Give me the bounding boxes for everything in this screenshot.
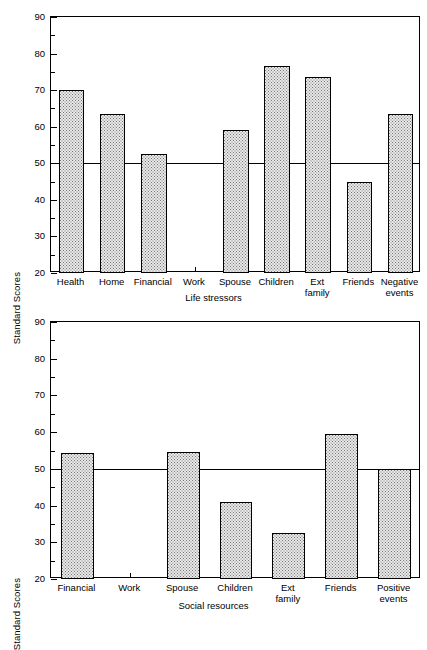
y-tick-minor — [51, 524, 55, 525]
reference-line-50-bottom — [51, 469, 419, 470]
y-tick-major — [51, 542, 57, 543]
y-tick-minor — [51, 451, 55, 452]
y-tick-minor — [51, 182, 55, 183]
x-category-label: Children — [205, 582, 266, 593]
bar — [220, 502, 253, 579]
bar — [100, 114, 125, 273]
y-tick-label: 30 — [34, 230, 45, 241]
y-tick-label: 60 — [34, 426, 45, 437]
bar — [61, 453, 94, 579]
plot-area-top — [50, 16, 420, 272]
x-tick — [130, 573, 131, 577]
x-tick — [195, 267, 196, 271]
chart-life-stressors: Standard Scores 2030405060708090 HealthH… — [0, 0, 427, 312]
y-tick-label: 60 — [34, 120, 45, 131]
y-tick-minor — [51, 35, 55, 36]
y-tick-minor — [51, 108, 55, 109]
y-tick-label: 50 — [34, 462, 45, 473]
x-category-label: Spouse — [152, 582, 213, 593]
y-tick-major — [51, 469, 57, 470]
y-tick-label: 80 — [34, 352, 45, 363]
y-tick-minor — [51, 377, 55, 378]
bar — [325, 434, 358, 579]
y-tick-major — [51, 506, 57, 507]
y-tick-label: 20 — [34, 267, 45, 278]
y-tick-major — [51, 54, 57, 55]
y-tick-minor — [51, 72, 55, 73]
y-tick-minor — [51, 340, 55, 341]
y-tick-minor — [51, 218, 55, 219]
y-tick-major — [51, 90, 57, 91]
y-tick-label: 70 — [34, 389, 45, 400]
y-tick-minor — [51, 145, 55, 146]
y-tick-major — [51, 236, 57, 237]
y-axis-title: Standard Scores — [0, 16, 14, 272]
y-tick-major — [51, 127, 57, 128]
y-tick-label: 40 — [34, 193, 45, 204]
y-tick-minor — [51, 255, 55, 256]
y-tick-label: 20 — [34, 573, 45, 584]
y-tick-major — [51, 200, 57, 201]
bar — [141, 154, 166, 273]
bar — [347, 182, 372, 273]
chart-social-resources: Standard Scores 2030405060708090 Financi… — [0, 312, 427, 625]
y-tick-label: 30 — [34, 536, 45, 547]
y-tick-major — [51, 395, 57, 396]
y-tick-major — [51, 273, 57, 274]
y-tick-label: 70 — [34, 84, 45, 95]
y-axis-title-bottom: Standard Scores — [0, 321, 14, 578]
y-tick-major — [51, 322, 57, 323]
y-tick-label: 90 — [34, 316, 45, 327]
y-tick-minor — [51, 414, 55, 415]
y-tick-major — [51, 579, 57, 580]
y-tick-major — [51, 432, 57, 433]
bar — [59, 90, 84, 273]
x-axis-title-bottom: Social resources — [0, 600, 427, 611]
y-tick-major — [51, 17, 57, 18]
bar — [305, 77, 330, 273]
x-axis-title-top: Life stressors — [0, 292, 427, 303]
bar — [167, 452, 200, 579]
plot-area-bottom — [50, 321, 420, 578]
y-tick-minor — [51, 561, 55, 562]
x-category-label: Financial — [46, 582, 107, 593]
bar — [264, 66, 289, 273]
bar — [223, 130, 248, 273]
y-tick-label: 90 — [34, 11, 45, 22]
y-tick-minor — [51, 487, 55, 488]
y-tick-label: 50 — [34, 157, 45, 168]
y-tick-label: 80 — [34, 47, 45, 58]
x-category-label: Friends — [310, 582, 371, 593]
bar — [272, 533, 305, 579]
bar — [378, 469, 411, 579]
x-category-label: Work — [99, 582, 160, 593]
y-tick-major — [51, 163, 57, 164]
y-tick-label: 40 — [34, 499, 45, 510]
y-axis-title-text-bottom: Standard Scores — [11, 578, 22, 650]
bar — [388, 114, 413, 273]
y-tick-major — [51, 359, 57, 360]
